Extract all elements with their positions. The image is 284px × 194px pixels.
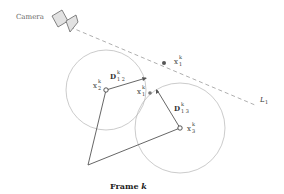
- svg-text:x: x: [174, 58, 178, 66]
- line-of-sight: [70, 27, 255, 105]
- svg-text:k: k: [181, 101, 185, 107]
- label-l1: L 1: [259, 96, 268, 105]
- point-x1-on-line: [162, 61, 166, 65]
- svg-text:x: x: [187, 125, 191, 133]
- svg-text:1: 1: [142, 91, 145, 97]
- point-x1-mid: [148, 91, 152, 95]
- svg-text:D: D: [110, 72, 116, 81]
- svg-text:k: k: [179, 54, 183, 60]
- label-x1-mid: x k 1: [137, 84, 146, 97]
- edge-x2-origin: [88, 90, 106, 165]
- label-x2: x k 2: [93, 78, 102, 91]
- svg-text:1: 1: [265, 99, 268, 105]
- svg-text:x: x: [93, 82, 97, 90]
- svg-text:k: k: [117, 69, 121, 75]
- point-x2: [104, 88, 108, 92]
- svg-text:2: 2: [98, 85, 101, 91]
- camera-label: Camera: [16, 13, 44, 21]
- label-x1-line: x k 1: [174, 54, 183, 67]
- svg-text:1 3: 1 3: [181, 108, 189, 114]
- point-x3: [178, 126, 182, 130]
- edge-origin-x3: [88, 128, 180, 165]
- camera-icon: [52, 10, 78, 32]
- svg-text:k: k: [98, 78, 102, 84]
- svg-text:x: x: [137, 88, 141, 96]
- svg-text:1 2: 1 2: [117, 76, 125, 82]
- svg-text:k: k: [192, 121, 196, 127]
- frame-diagram: Camera x k 1 x k 2 x k 1 x k 3 D k 1 2 D…: [0, 0, 284, 194]
- label-d13: D k 1 3: [174, 101, 189, 114]
- label-d12: D k 1 2: [110, 69, 125, 82]
- caption: Frame k: [110, 181, 147, 191]
- svg-text:3: 3: [192, 128, 195, 134]
- svg-text:D: D: [174, 104, 180, 113]
- label-x3: x k 3: [187, 121, 196, 134]
- svg-text:1: 1: [179, 61, 182, 67]
